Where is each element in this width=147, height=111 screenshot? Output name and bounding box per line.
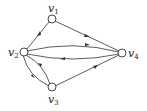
label-v3: v3 xyxy=(48,93,59,107)
node-v2 xyxy=(20,48,28,56)
label-v4: v4 xyxy=(128,47,139,61)
label-v2: v2 xyxy=(8,46,19,60)
edge-v2-v4-upper xyxy=(27,46,119,52)
node-v4 xyxy=(118,49,126,57)
graph-canvas: v1 v2 v3 v4 xyxy=(0,0,147,111)
arrow-v2-v4 xyxy=(85,43,90,46)
node-v1 xyxy=(48,15,56,23)
node-v3 xyxy=(48,83,56,91)
arrow-v1-v4 xyxy=(84,34,90,37)
edge-v2-v3-outer xyxy=(23,55,49,86)
arrow-v3-v4 xyxy=(93,65,98,69)
edge-v4-v2-lower xyxy=(27,54,119,59)
label-v1: v1 xyxy=(48,2,59,16)
arrow-v2-v1 xyxy=(37,31,41,36)
